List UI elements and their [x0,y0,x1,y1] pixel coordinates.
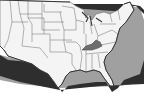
us-map [0,0,145,94]
